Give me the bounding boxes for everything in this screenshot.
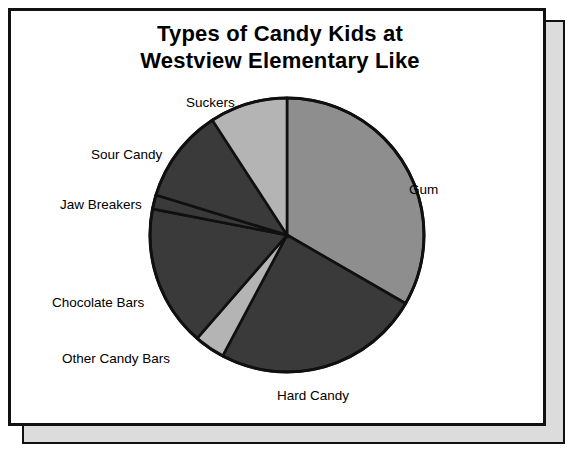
pie-label-chocolate-bars: Chocolate Bars xyxy=(52,296,144,310)
screenshot-stage: Types of Candy Kids at Westview Elementa… xyxy=(0,0,572,451)
pie-label-suckers: Suckers xyxy=(186,96,235,110)
pie-chart-svg xyxy=(11,11,549,429)
pie-label-hard-candy: Hard Candy xyxy=(277,389,349,403)
pie-label-sour-candy: Sour Candy xyxy=(91,148,162,162)
worksheet-page: Types of Candy Kids at Westview Elementa… xyxy=(8,8,546,426)
pie-chart: GumHard CandyOther Candy BarsChocolate B… xyxy=(11,11,549,429)
pie-label-gum: Gum xyxy=(409,183,438,197)
pie-label-jaw-breakers: Jaw Breakers xyxy=(60,198,142,212)
pie-label-other-candy-bars: Other Candy Bars xyxy=(62,352,170,366)
